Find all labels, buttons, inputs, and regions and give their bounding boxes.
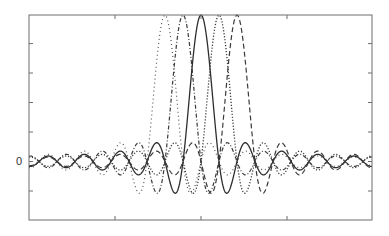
axes-frame [29,15,372,220]
series-line-dotted-light [29,15,372,193]
series-line-dotted [29,15,372,193]
sinc-chart: 0 [0,0,389,236]
series-line-solid [29,15,372,193]
y-tick-label-zero: 0 [16,155,22,167]
series-layer [29,15,372,193]
series-line-dash-dot [29,15,372,193]
ticks-layer [29,15,372,220]
series-line-dashed [29,15,372,193]
